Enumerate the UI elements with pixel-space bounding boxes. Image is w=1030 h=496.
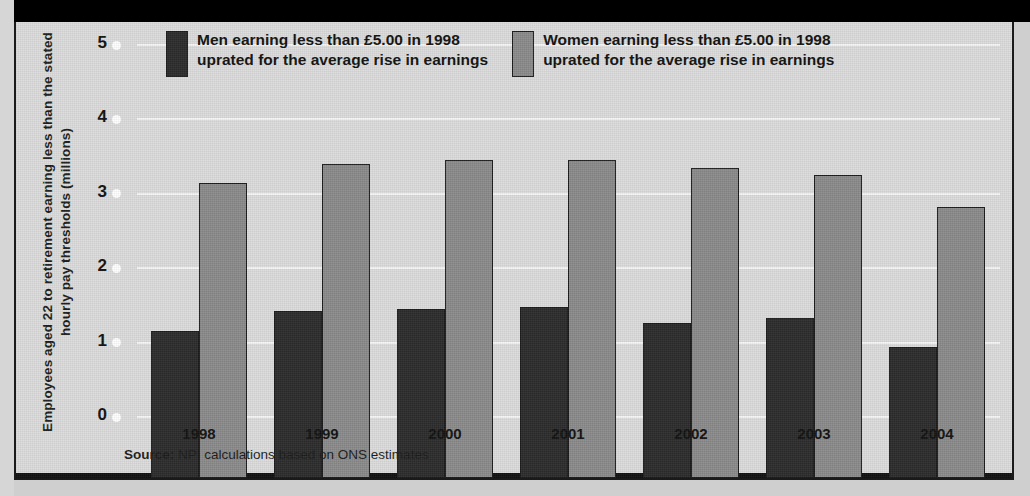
legend-swatch-women bbox=[512, 31, 534, 77]
chart-figure: Employees aged 22 to retirement earning … bbox=[14, 22, 1014, 480]
x-axis-label-2001: 2001 bbox=[520, 425, 616, 442]
bar-group bbox=[643, 84, 739, 478]
bar-group bbox=[397, 84, 493, 478]
chart-legend: Men earning less than £5.00 in 1998 upra… bbox=[166, 30, 834, 77]
y-tick-label-5: 5 bbox=[85, 33, 107, 53]
legend-label-men: Men earning less than £5.00 in 1998 upra… bbox=[197, 30, 488, 70]
bar-men-2003 bbox=[766, 318, 814, 478]
bar-group bbox=[766, 84, 862, 478]
legend-item-women: Women earning less than £5.00 in 1998 up… bbox=[512, 30, 834, 77]
y-tick-label-1: 1 bbox=[85, 331, 107, 351]
tick-dot-1 bbox=[112, 338, 121, 347]
tick-dot-4 bbox=[112, 115, 121, 124]
bar-men-2004 bbox=[889, 347, 937, 478]
bar-group bbox=[274, 84, 370, 478]
y-tick-label-2: 2 bbox=[85, 256, 107, 276]
x-axis-label-1999: 1999 bbox=[274, 425, 370, 442]
bar-series-layer bbox=[137, 22, 1000, 478]
legend-swatch-men bbox=[166, 31, 188, 77]
source-text: NPI calculations based on ONS estimates bbox=[174, 447, 428, 462]
tick-dot-5 bbox=[112, 41, 121, 50]
source-prefix: Source: bbox=[124, 447, 174, 462]
legend-item-men: Men earning less than £5.00 in 1998 upra… bbox=[166, 30, 488, 77]
bar-group bbox=[889, 84, 985, 478]
x-axis-label-1998: 1998 bbox=[151, 425, 247, 442]
tick-dot-3 bbox=[112, 189, 121, 198]
bar-group bbox=[151, 84, 247, 478]
tick-dot-2 bbox=[112, 264, 121, 273]
x-axis-label-2000: 2000 bbox=[397, 425, 493, 442]
source-note: Source: NPI calculations based on ONS es… bbox=[124, 447, 429, 462]
left-margin-strip bbox=[0, 0, 14, 496]
y-tick-label-4: 4 bbox=[85, 107, 107, 127]
x-axis-label-2002: 2002 bbox=[643, 425, 739, 442]
y-tick-label-0: 0 bbox=[85, 405, 107, 425]
bar-men-2002 bbox=[643, 323, 691, 478]
plot-area: 012345 1998199920002001200220032004 bbox=[137, 22, 1000, 478]
bar-group bbox=[520, 84, 616, 478]
x-axis-label-2003: 2003 bbox=[766, 425, 862, 442]
bar-men-2001 bbox=[520, 307, 568, 478]
top-black-band bbox=[0, 0, 1030, 22]
y-tick-label-3: 3 bbox=[85, 182, 107, 202]
legend-label-women: Women earning less than £5.00 in 1998 up… bbox=[543, 30, 834, 70]
x-axis-label-2004: 2004 bbox=[889, 425, 985, 442]
y-axis-title: Employees aged 22 to retirement earning … bbox=[26, 32, 88, 432]
tick-dot-0 bbox=[112, 413, 121, 422]
